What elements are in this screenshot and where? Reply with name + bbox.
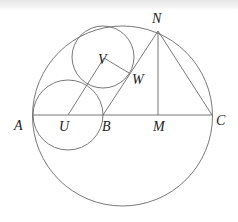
label-m: M xyxy=(152,119,166,134)
label-b: B xyxy=(102,119,111,134)
segment-nc xyxy=(158,31,212,115)
big-circle xyxy=(33,26,213,206)
label-w: W xyxy=(132,72,145,87)
label-n: N xyxy=(151,11,162,26)
label-v: V xyxy=(98,52,108,67)
label-u: U xyxy=(59,119,70,134)
label-c: C xyxy=(216,113,226,128)
label-a: A xyxy=(13,118,23,133)
segment-vw xyxy=(104,58,129,73)
geometry-diagram: A U B M C N V W xyxy=(0,0,238,222)
